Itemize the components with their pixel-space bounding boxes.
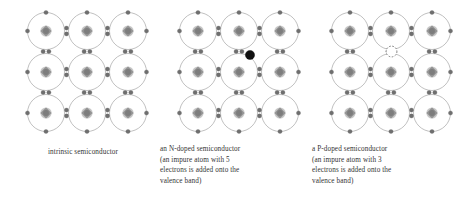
boundary-electron bbox=[44, 129, 48, 133]
shared-electron-pair-dot bbox=[368, 73, 372, 77]
shared-electron-pair-dot bbox=[368, 26, 372, 30]
shared-electron-pair-dot bbox=[216, 26, 220, 30]
shared-electron-pair-dot bbox=[199, 90, 203, 94]
shared-electron-pair-dot bbox=[47, 49, 51, 53]
atom-nucleus-core bbox=[388, 28, 394, 34]
shared-electron-pair-dot bbox=[105, 114, 109, 118]
panel-caption: intrinsic semiconductor bbox=[8, 147, 158, 158]
boundary-electron bbox=[329, 70, 333, 74]
semiconductor-doping-figure: intrinsic semiconductoran N-doped semico… bbox=[0, 0, 462, 203]
shared-electron-pair-dot bbox=[433, 90, 437, 94]
shared-electron-pair-dot bbox=[123, 90, 127, 94]
atom-nucleus-core bbox=[347, 69, 353, 75]
atom-nucleus-core bbox=[277, 110, 283, 116]
atom-nucleus-core bbox=[195, 28, 201, 34]
boundary-electron bbox=[430, 129, 434, 133]
atom-nucleus-core bbox=[236, 69, 242, 75]
shared-electron-pair-dot bbox=[193, 49, 197, 53]
shared-electron-pair-dot bbox=[234, 49, 238, 53]
boundary-electron bbox=[296, 111, 300, 115]
shared-electron-pair-dot bbox=[409, 114, 413, 118]
caption-line: a P-doped semiconductor bbox=[312, 144, 462, 155]
intrinsic-semiconductor-panel: intrinsic semiconductor bbox=[8, 0, 158, 203]
boundary-electron bbox=[448, 29, 452, 33]
shared-electron-pair-dot bbox=[47, 90, 51, 94]
atom-nucleus-core bbox=[43, 28, 49, 34]
caption-line: an N-doped semiconductor bbox=[160, 144, 310, 155]
nuclei-group bbox=[344, 25, 437, 118]
nuclei-group bbox=[192, 25, 285, 118]
caption-line: intrinsic semiconductor bbox=[8, 147, 158, 158]
shared-electron-pair-dot bbox=[351, 90, 355, 94]
caption-line: valence band) bbox=[160, 176, 310, 187]
atomic-lattice bbox=[8, 0, 158, 145]
shared-electron-pair-dot bbox=[41, 90, 45, 94]
shared-electron-pair-dot bbox=[82, 90, 86, 94]
shared-electron-pair-dot bbox=[409, 67, 413, 71]
boundary-electron bbox=[430, 10, 434, 14]
atom-nucleus-core bbox=[125, 28, 131, 34]
shared-electron-pair-dot bbox=[64, 32, 68, 36]
shared-electron-pair-dot bbox=[64, 108, 68, 112]
atom-nucleus-core bbox=[125, 110, 131, 116]
shared-electron-pair-dot bbox=[409, 108, 413, 112]
shared-electron-pair-dot bbox=[88, 49, 92, 53]
shared-electron-pair-dot bbox=[41, 49, 45, 53]
shared-electron-pair-dot bbox=[234, 90, 238, 94]
shared-electron-pair-dot bbox=[392, 90, 396, 94]
shared-electron-pair-dot bbox=[105, 32, 109, 36]
boundary-electron bbox=[389, 10, 393, 14]
shared-electron-pair-dot bbox=[427, 49, 431, 53]
shared-electron-pair-dot bbox=[64, 73, 68, 77]
shared-electron-pair-dot bbox=[199, 49, 203, 53]
n-doped-semiconductor-panel: an N-doped semiconductor(an impure atom … bbox=[160, 0, 310, 203]
atom-nucleus-core bbox=[429, 28, 435, 34]
shared-electron-pair-dot bbox=[275, 90, 279, 94]
boundary-electron bbox=[389, 129, 393, 133]
caption-line: electrons is added onto the bbox=[160, 165, 310, 176]
boundary-electron bbox=[177, 111, 181, 115]
boundary-electron bbox=[44, 10, 48, 14]
caption-line: valence band) bbox=[312, 176, 462, 187]
atomic-lattice bbox=[160, 0, 310, 145]
boundary-electron bbox=[329, 29, 333, 33]
shared-electron-pair-dot bbox=[216, 73, 220, 77]
atom-nucleus-core bbox=[125, 69, 131, 75]
boundary-electron bbox=[448, 70, 452, 74]
shared-electron-pair-dot bbox=[240, 49, 244, 53]
boundary-electron bbox=[126, 10, 130, 14]
shared-electron-pair-dot bbox=[281, 49, 285, 53]
shared-electron-pair-dot bbox=[240, 90, 244, 94]
shared-electron-pair-dot bbox=[216, 67, 220, 71]
boundary-electron bbox=[25, 111, 29, 115]
boundary-electron bbox=[177, 70, 181, 74]
shared-electron-pair-dot bbox=[64, 26, 68, 30]
shared-electron-pair-dot bbox=[257, 67, 261, 71]
shared-electron-pair-dot bbox=[386, 90, 390, 94]
atom-nucleus-core bbox=[236, 110, 242, 116]
atom-nucleus-core bbox=[84, 28, 90, 34]
nuclei-group bbox=[40, 25, 133, 118]
boundary-electron bbox=[278, 129, 282, 133]
atom-nucleus-core bbox=[347, 28, 353, 34]
boundary-electron bbox=[448, 111, 452, 115]
shared-electron-pair-dot bbox=[123, 49, 127, 53]
panel-caption: a P-doped semiconductor(an impure atom w… bbox=[312, 144, 462, 186]
boundary-electron bbox=[85, 129, 89, 133]
shared-electron-pair-dot bbox=[64, 114, 68, 118]
atom-nucleus-core bbox=[429, 110, 435, 116]
shared-electron-pair-dot bbox=[105, 26, 109, 30]
boundary-electron bbox=[237, 10, 241, 14]
atom-nucleus-core bbox=[277, 69, 283, 75]
atom-nucleus-core bbox=[277, 28, 283, 34]
atom-nucleus-core bbox=[84, 69, 90, 75]
atom-nucleus-core bbox=[84, 110, 90, 116]
shared-electron-pair-dot bbox=[257, 73, 261, 77]
boundary-electron bbox=[296, 70, 300, 74]
caption-line: (an impure atom with 3 bbox=[312, 155, 462, 166]
atom-nucleus-core bbox=[388, 110, 394, 116]
shared-electron-pair-dot bbox=[433, 49, 437, 53]
shared-electron-pair-dot bbox=[427, 90, 431, 94]
boundary-electron bbox=[144, 29, 148, 33]
shared-electron-pair-dot bbox=[129, 49, 133, 53]
